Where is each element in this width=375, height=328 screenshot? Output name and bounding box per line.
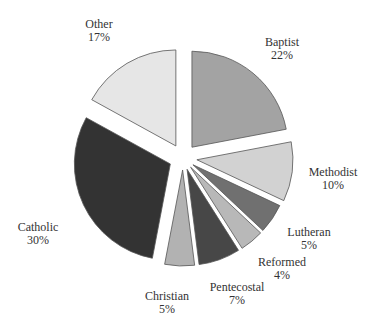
label-percent: 22% [271, 48, 293, 62]
pie-chart: Baptist22%Methodist10%Lutheran5%Reformed… [0, 0, 375, 328]
label-percent: 5% [159, 302, 175, 316]
label-category: Lutheran [287, 225, 330, 239]
label-category: Christian [145, 289, 189, 303]
label-category: Pentecostal [210, 280, 265, 294]
pie-labels: Baptist22%Methodist10%Lutheran5%Reformed… [18, 17, 358, 316]
slice-baptist [192, 51, 286, 147]
label-baptist: Baptist22% [265, 35, 300, 62]
label-catholic: Catholic30% [18, 220, 59, 247]
pie-slices [74, 50, 293, 266]
label-christian: Christian5% [145, 289, 189, 316]
label-methodist: Methodist10% [309, 165, 358, 192]
label-percent: 17% [88, 30, 110, 44]
label-percent: 5% [301, 238, 317, 252]
label-lutheran: Lutheran5% [287, 225, 330, 252]
label-category: Baptist [265, 35, 300, 49]
label-category: Reformed [258, 255, 306, 269]
label-percent: 4% [274, 268, 290, 282]
label-category: Catholic [18, 220, 59, 234]
label-reformed: Reformed4% [258, 255, 306, 282]
label-pentecostal: Pentecostal7% [210, 280, 265, 307]
label-percent: 7% [229, 293, 245, 307]
label-percent: 10% [322, 178, 344, 192]
label-other: Other17% [85, 17, 112, 44]
label-category: Methodist [309, 165, 358, 179]
slice-catholic [74, 118, 170, 259]
label-percent: 30% [27, 233, 49, 247]
label-category: Other [85, 17, 112, 31]
